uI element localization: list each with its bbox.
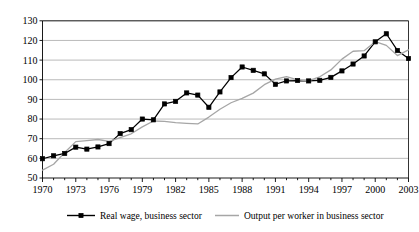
data-point-1994 bbox=[307, 79, 311, 83]
gridlines bbox=[40, 21, 409, 178]
y-tick-label-130: 130 bbox=[23, 15, 38, 26]
chart-container: 5060708090100110120130 19701973197619791… bbox=[0, 0, 419, 232]
data-point-1979 bbox=[140, 117, 144, 121]
data-point-1971 bbox=[51, 154, 55, 158]
data-point-1972 bbox=[63, 151, 67, 155]
data-point-1992 bbox=[284, 79, 288, 83]
legend-label-1: Output per worker in business sector bbox=[244, 211, 384, 221]
x-tick-label-1988: 1988 bbox=[232, 184, 252, 195]
x-tick-label-2003: 2003 bbox=[399, 184, 419, 195]
data-point-1997 bbox=[340, 69, 344, 73]
data-point-1975 bbox=[96, 145, 100, 149]
data-point-1973 bbox=[74, 145, 78, 149]
x-tick-label-1979: 1979 bbox=[132, 184, 152, 195]
data-point-1974 bbox=[85, 147, 89, 151]
data-point-1998 bbox=[351, 62, 355, 66]
x-tick-label-1994: 1994 bbox=[299, 184, 319, 195]
data-point-2003 bbox=[406, 56, 410, 60]
x-tick-label-1973: 1973 bbox=[66, 184, 86, 195]
data-point-1990 bbox=[262, 72, 266, 76]
y-tick-label-120: 120 bbox=[23, 35, 38, 46]
x-axis-ticks bbox=[43, 178, 409, 182]
data-point-1993 bbox=[295, 78, 299, 82]
series-line-output-per-worker bbox=[43, 42, 409, 171]
data-point-2000 bbox=[373, 40, 377, 44]
data-point-1996 bbox=[329, 75, 333, 79]
x-tick-label-1985: 1985 bbox=[199, 184, 219, 195]
legend-item-output-per-worker[interactable]: Output per worker in business sector bbox=[215, 211, 384, 221]
y-axis-tick-labels: 5060708090100110120130 bbox=[23, 15, 38, 183]
y-tick-label-70: 70 bbox=[28, 133, 38, 144]
y-tick-label-50: 50 bbox=[28, 172, 38, 183]
data-point-1978 bbox=[129, 128, 133, 132]
legend-label-0: Real wage, business sector bbox=[100, 211, 203, 221]
x-tick-label-1970: 1970 bbox=[33, 184, 53, 195]
x-tick-label-1997: 1997 bbox=[332, 184, 352, 195]
line-chart: 5060708090100110120130 19701973197619791… bbox=[0, 0, 419, 232]
data-point-1988 bbox=[240, 65, 244, 69]
data-point-1985 bbox=[207, 105, 211, 109]
data-point-1977 bbox=[118, 131, 122, 135]
data-point-2002 bbox=[395, 48, 399, 52]
legend-item-real-wage[interactable]: Real wage, business sector bbox=[67, 211, 203, 221]
data-point-1986 bbox=[218, 90, 222, 94]
x-tick-label-1982: 1982 bbox=[166, 184, 186, 195]
data-point-1980 bbox=[151, 118, 155, 122]
data-point-1991 bbox=[273, 82, 277, 86]
y-tick-label-110: 110 bbox=[23, 55, 38, 66]
y-tick-label-90: 90 bbox=[28, 94, 38, 105]
x-tick-label-2000: 2000 bbox=[365, 184, 385, 195]
data-point-1983 bbox=[185, 91, 189, 95]
data-point-1984 bbox=[196, 93, 200, 97]
data-point-1982 bbox=[173, 99, 177, 103]
legend-swatch-marker bbox=[79, 213, 83, 217]
x-tick-label-1976: 1976 bbox=[99, 184, 119, 195]
data-point-2001 bbox=[384, 32, 388, 36]
y-tick-label-80: 80 bbox=[28, 113, 38, 124]
data-point-1987 bbox=[229, 75, 233, 79]
data-point-1976 bbox=[107, 142, 111, 146]
data-point-1989 bbox=[251, 68, 255, 72]
data-point-1995 bbox=[318, 78, 322, 82]
y-tick-label-100: 100 bbox=[23, 74, 38, 85]
y-tick-label-60: 60 bbox=[28, 153, 38, 164]
data-point-1970 bbox=[40, 157, 44, 161]
chart-legend: Real wage, business sectorOutput per wor… bbox=[67, 211, 384, 221]
data-point-1999 bbox=[362, 54, 366, 58]
x-tick-label-1991: 1991 bbox=[265, 184, 285, 195]
data-series bbox=[43, 34, 409, 170]
x-axis-tick-labels: 1970197319761979198219851988199119941997… bbox=[33, 184, 419, 195]
data-point-1981 bbox=[162, 102, 166, 106]
